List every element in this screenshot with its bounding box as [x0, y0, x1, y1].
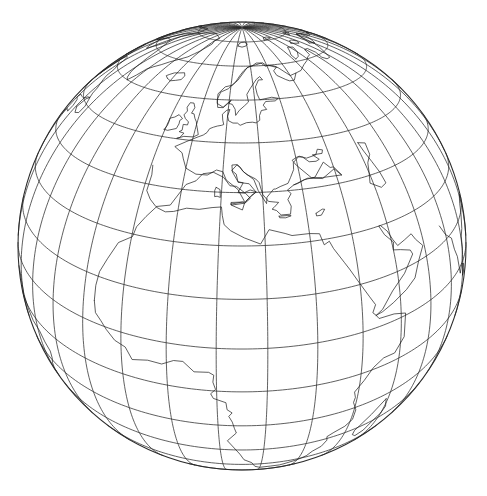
figure-background [0, 0, 487, 496]
globe-map-figure [0, 0, 487, 496]
globe-projection-svg [0, 0, 487, 496]
